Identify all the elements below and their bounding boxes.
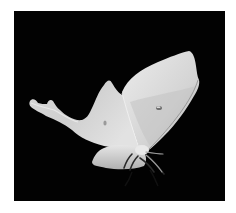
eyespot-left [103,120,106,125]
eyespot-right-highlight [157,106,161,108]
thorax [135,145,149,155]
antennae [146,152,163,172]
moth-photo [14,11,225,201]
moth-illustration [14,11,225,201]
leg-shadows [125,170,158,186]
